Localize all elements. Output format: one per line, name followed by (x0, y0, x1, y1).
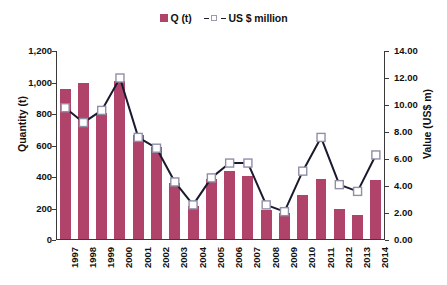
x-axis-tick-label: 2005 (216, 247, 226, 268)
y-axis-left-tick-label: 1,200 (28, 46, 52, 56)
y-axis-right-tickmark (385, 186, 389, 187)
y-axis-right-tickmark (385, 240, 389, 241)
line-marker (262, 201, 270, 209)
line-series-value (56, 51, 385, 240)
x-axis-tick-label: 2011 (326, 247, 336, 268)
y-axis-right-tick-label: 0.00 (394, 235, 413, 245)
x-axis-tick-label: 2014 (380, 247, 390, 268)
line-marker (153, 144, 161, 152)
y-axis-right-tick-label: 10.00 (394, 100, 418, 110)
y-axis-left-tick-label: 800 (36, 109, 52, 119)
x-axis-tick-label: 2001 (143, 247, 153, 268)
y-axis-left-tick-label: 400 (36, 172, 52, 182)
line-marker (317, 133, 325, 141)
line-marker (79, 119, 87, 127)
y-axis-right-tickmark (385, 132, 389, 133)
line-marker (116, 74, 124, 82)
y-axis-right-tick-label: 8.00 (394, 127, 413, 137)
line-marker (98, 106, 106, 114)
line-marker (189, 201, 197, 209)
line-marker (354, 187, 362, 195)
y-axis-right-tick-label: 2.00 (394, 208, 413, 218)
x-axis-tick-label: 1997 (70, 247, 80, 268)
y-axis-right-tickmark (385, 213, 389, 214)
y-axis-left-tick-label: 600 (36, 141, 52, 151)
y-axis-right-tickmark (385, 159, 389, 160)
y-axis-right-tick-label: 14.00 (394, 46, 418, 56)
legend-entry-value: US $ million (204, 12, 288, 24)
y-axis-right-tickmark (385, 78, 389, 79)
y-axis-right-tick-label: 12.00 (394, 73, 418, 83)
y-axis-left-title: Quantity (t) (16, 64, 28, 184)
x-axis-tick-label: 2003 (179, 247, 189, 268)
line-marker (61, 104, 69, 112)
y-axis-right-title: Value (US$ m) (421, 64, 433, 184)
y-axis-right-tick-label: 4.00 (394, 181, 413, 191)
chart-container: Q (t) US $ million Quantity (t) Value (U… (0, 0, 447, 285)
y-axis-right-tickmark (385, 51, 389, 52)
x-axis-tick-label: 2000 (124, 247, 134, 268)
x-axis-tick-label: 2009 (289, 247, 299, 268)
legend-entry-quantity: Q (t) (160, 12, 192, 24)
x-axis-tick-label: 2004 (198, 247, 208, 268)
y-axis-right-tick-label: 6.00 (394, 154, 413, 164)
x-axis-tick-label: 2013 (362, 247, 372, 268)
x-axis-tick-label: 2012 (344, 247, 354, 268)
legend-line-swatch-icon (204, 14, 226, 23)
line-marker (244, 159, 252, 167)
legend-label-quantity: Q (t) (171, 12, 192, 24)
x-axis-tick-label: 1999 (106, 247, 116, 268)
plot-area (56, 51, 385, 240)
line-marker (299, 167, 307, 175)
y-axis-left-tickmark (52, 240, 56, 241)
legend-label-value: US $ million (229, 12, 288, 24)
x-axis-tick-label: 2002 (161, 247, 171, 268)
x-axis-tick-label: 2006 (234, 247, 244, 268)
chart-legend: Q (t) US $ million (0, 12, 447, 24)
line-marker (226, 159, 234, 167)
x-axis-tick-label: 2007 (252, 247, 262, 268)
line-marker (134, 133, 142, 141)
line-marker (171, 178, 179, 186)
x-axis-tick-label: 1998 (88, 247, 98, 268)
x-axis-tick-label: 2008 (271, 247, 281, 268)
line-marker (335, 181, 343, 189)
x-axis-tick-label: 2010 (307, 247, 317, 268)
legend-bar-swatch-icon (160, 14, 168, 22)
y-axis-left-tick-label: 1,000 (28, 78, 52, 88)
line-path (65, 78, 376, 212)
line-marker (207, 174, 215, 182)
line-marker (280, 208, 288, 216)
y-axis-right-tickmark (385, 105, 389, 106)
line-marker (372, 151, 380, 159)
y-axis-left-tick-label: 200 (36, 204, 52, 214)
